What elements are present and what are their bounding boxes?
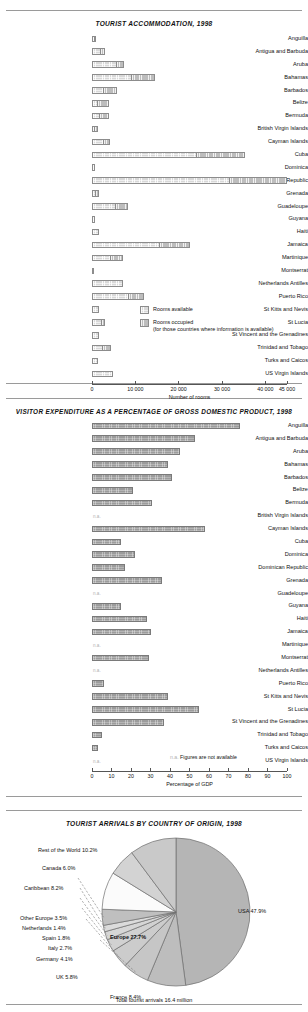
chart1-bar-track xyxy=(92,214,287,227)
pie-label-other-europe: Other Europe 3.5% xyxy=(20,915,67,921)
pie-label-italy: Italy 2.7% xyxy=(48,945,72,951)
legend-item-rooms-occupied: Rooms occupied (for those countries wher… xyxy=(140,319,273,334)
bar-rooms-occupied xyxy=(95,190,99,197)
table-row: Aruba xyxy=(0,447,308,460)
chart1-bar-track xyxy=(92,292,287,305)
chart2-axis-tick-label: 40 xyxy=(167,773,173,779)
bar-rooms-occupied xyxy=(97,100,109,107)
chart2-bar-track xyxy=(92,679,287,692)
table-row: Guadeloupen.a. xyxy=(0,589,308,602)
chart1-bar-track xyxy=(92,369,287,382)
table-row: Turks and Caicos xyxy=(0,743,308,756)
table-row: Grenada xyxy=(0,576,308,589)
table-row: Aruba xyxy=(0,60,308,73)
bar-gdp-percentage xyxy=(92,423,240,430)
chart1-bar-track xyxy=(92,111,287,124)
legend-item-rooms-available: Rooms available xyxy=(140,306,273,314)
chart2-na-marker: n.a. xyxy=(93,591,101,596)
chart2-axis-tick xyxy=(189,768,190,771)
bar-rooms-occupied xyxy=(131,74,155,81)
chart1-title: TOURIST ACCOMMODATION, 1998 xyxy=(0,20,308,27)
chart1-bar-track xyxy=(92,189,287,202)
chart2-bar-track xyxy=(92,627,287,640)
chart2-bar-track xyxy=(92,537,287,550)
na-marker: n.a. xyxy=(170,754,179,760)
chart2-axis-tick xyxy=(248,768,249,771)
chart2-bar-track: n.a. xyxy=(92,589,287,602)
bar-gdp-percentage xyxy=(92,577,162,584)
pie-label-usa: USA 47.9% xyxy=(238,908,266,914)
chart2-na-marker: n.a. xyxy=(93,668,101,673)
bar-rooms-occupied xyxy=(159,242,190,249)
chart1-bar-track xyxy=(92,98,287,111)
bar-gdp-percentage xyxy=(92,732,102,739)
chart2-axis-tick-label: 30 xyxy=(148,773,154,779)
chart2-bar-track xyxy=(92,498,287,511)
chart2-bar-track xyxy=(92,730,287,743)
chart3-title: TOURIST ARRIVALS BY COUNTRY OF ORIGIN, 1… xyxy=(0,820,308,827)
bar-gdp-percentage xyxy=(92,629,151,636)
pie-label-canada: Canada 6.0% xyxy=(42,865,75,871)
chart-tourist-accommodation: TOURIST ACCOMMODATION, 1998 AnguillaAnti… xyxy=(0,20,308,408)
chart2-axis-tick-label: 70 xyxy=(226,773,232,779)
chart2-axis-tick xyxy=(170,768,171,771)
pie-leader-line xyxy=(80,888,105,928)
figure-page: TOURIST ACCOMMODATION, 1998 AnguillaAnti… xyxy=(0,0,308,1012)
bar-rooms-occupied xyxy=(103,139,110,146)
table-row: Bahamas xyxy=(0,73,308,86)
bar-gdp-percentage xyxy=(92,603,121,610)
chart1-bar-track xyxy=(92,240,287,253)
bar-gdp-percentage xyxy=(92,616,147,623)
chart1-axis-line xyxy=(92,384,287,385)
chart1-axis-tick xyxy=(178,381,179,384)
bar-rooms-occupied xyxy=(196,152,245,159)
table-row: Belize xyxy=(0,98,308,111)
table-row: Cuba xyxy=(0,537,308,550)
chart1-bar-track xyxy=(92,124,287,137)
chart1-bar-track xyxy=(92,266,287,279)
pie-label-europe-group: Europe 27.7% xyxy=(110,934,146,940)
bar-gdp-percentage xyxy=(92,526,205,533)
chart2-bar-track xyxy=(92,653,287,666)
chart1-legend: Rooms available Rooms occupied (for thos… xyxy=(140,306,273,339)
bar-rooms-occupied xyxy=(99,113,109,120)
bar-rooms-occupied xyxy=(101,319,105,326)
table-row: Guyana xyxy=(0,601,308,614)
table-row: St Lucia xyxy=(0,705,308,718)
divider-bottom xyxy=(6,1004,302,1005)
chart2-bar-track xyxy=(92,614,287,627)
table-row: British Virgin Islandsn.a. xyxy=(0,511,308,524)
bar-rooms-occupied xyxy=(128,293,145,300)
table-row: Dominica xyxy=(0,550,308,563)
pie-label-spain: Spain 1.8% xyxy=(42,935,70,941)
table-row: Cayman Islands xyxy=(0,137,308,150)
bar-rooms-available xyxy=(92,216,95,223)
table-row: British Virgin Islands xyxy=(0,124,308,137)
bar-gdp-percentage xyxy=(92,564,125,571)
chart1-bar-track xyxy=(92,150,287,163)
table-row: Antigua and Barbuda xyxy=(0,47,308,60)
chart2-bar-track xyxy=(92,717,287,730)
bar-rooms-available xyxy=(92,332,99,339)
table-row: Belize xyxy=(0,485,308,498)
chart2-axis-tick xyxy=(287,768,288,771)
legend-swatch-rooms-occupied xyxy=(140,319,149,327)
bar-rooms-occupied xyxy=(94,36,96,43)
bar-rooms-available xyxy=(92,268,94,275)
chart2-axis-tick xyxy=(267,768,268,771)
table-row: Turks and Caicos xyxy=(0,356,308,369)
chart2-na-marker: n.a. xyxy=(93,759,101,764)
chart-visitor-expenditure: VISITOR EXPENDITURE AS A PERCENTAGE OF G… xyxy=(0,408,308,795)
chart2-bar-track xyxy=(92,692,287,705)
chart1-axis-tick xyxy=(222,381,223,384)
bar-rooms-available xyxy=(92,164,95,171)
bar-rooms-available xyxy=(92,229,99,236)
chart1-bar-track xyxy=(92,279,287,292)
bar-rooms-occupied xyxy=(110,255,123,262)
chart1-axis-tick xyxy=(135,381,136,384)
chart1-bar-track xyxy=(92,34,287,47)
pie-label-germany: Germany 4.1% xyxy=(36,956,73,962)
table-row: Martinique xyxy=(0,253,308,266)
legend-swatch-rooms-available xyxy=(140,306,149,314)
bar-gdp-percentage xyxy=(92,706,199,713)
